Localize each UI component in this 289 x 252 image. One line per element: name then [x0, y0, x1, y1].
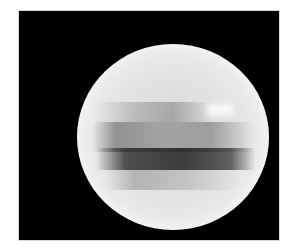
planet-sphere [77, 44, 269, 230]
image-frame [18, 10, 280, 241]
limb-glow [77, 44, 269, 230]
